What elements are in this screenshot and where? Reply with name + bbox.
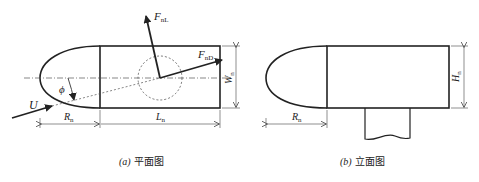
pier-body-outline — [327, 46, 449, 108]
nose-length-label: Rn — [291, 111, 302, 124]
drag-force-arrow — [160, 60, 222, 78]
height-label: Hn — [450, 71, 463, 83]
drag-force-label: FnD — [197, 48, 213, 62]
pier-nose-outline — [266, 46, 327, 108]
elevation-view: Rn Hn (b)立面图 — [266, 46, 468, 168]
flow-velocity-label: U — [29, 98, 39, 112]
pier-diagram: FnL FnD U ϕ Rn Ln Wn (a)平面图 Rn Hn (b)立面图 — [0, 0, 479, 182]
nose-length-label: Rn — [63, 111, 74, 124]
angle-label: ϕ — [59, 83, 65, 95]
body-length-label: Ln — [155, 111, 166, 124]
plan-view: FnL FnD U ϕ Rn Ln Wn (a)平面图 — [12, 10, 240, 168]
lift-force-label: FnL — [153, 10, 169, 24]
pier-column — [365, 108, 410, 140]
pier-nose-outline — [40, 46, 100, 108]
lift-force-arrow — [146, 16, 160, 78]
plan-view-caption: (a)平面图 — [119, 156, 164, 168]
width-label: Wn — [223, 72, 236, 84]
elevation-view-caption: (b)立面图 — [340, 155, 385, 168]
flow-direction-line — [52, 78, 160, 106]
angle-arc — [68, 78, 74, 100]
